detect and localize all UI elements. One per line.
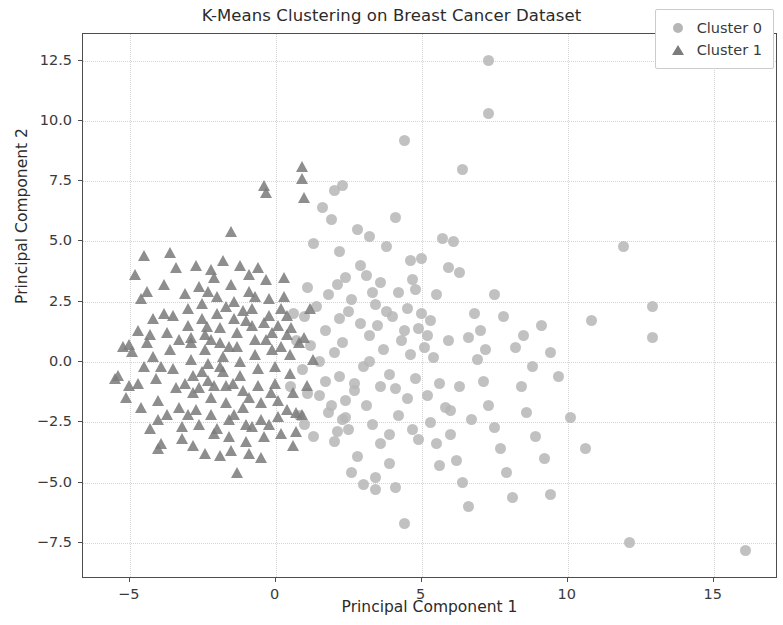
- legend-item-cluster-0[interactable]: Cluster 0: [665, 17, 762, 39]
- data-point-cluster-1: [173, 334, 185, 345]
- data-point-cluster-0: [501, 467, 512, 478]
- y-tick-mark: [78, 542, 82, 543]
- data-point-cluster-0: [384, 429, 395, 440]
- y-tick-mark: [78, 421, 82, 422]
- data-point-cluster-1: [167, 363, 179, 374]
- data-point-cluster-0: [384, 458, 395, 469]
- data-point-cluster-0: [337, 180, 348, 191]
- data-point-cluster-1: [199, 448, 211, 459]
- data-point-cluster-1: [272, 320, 284, 331]
- data-point-cluster-0: [390, 212, 401, 223]
- data-point-cluster-1: [129, 269, 141, 280]
- data-points-layer: [83, 34, 776, 577]
- data-point-cluster-0: [463, 501, 474, 512]
- data-point-cluster-1: [269, 361, 281, 372]
- data-point-cluster-0: [399, 325, 410, 336]
- data-point-cluster-1: [179, 288, 191, 299]
- data-point-cluster-0: [495, 443, 506, 454]
- data-point-cluster-1: [296, 173, 308, 184]
- data-point-cluster-0: [489, 289, 500, 300]
- data-point-cluster-0: [483, 400, 494, 411]
- data-point-cluster-0: [413, 323, 424, 334]
- data-point-cluster-0: [390, 383, 401, 394]
- data-point-cluster-0: [580, 443, 591, 454]
- data-point-cluster-1: [123, 380, 135, 391]
- data-point-cluster-0: [334, 313, 345, 324]
- y-tick-label: 5.0: [12, 232, 72, 248]
- data-point-cluster-1: [278, 291, 290, 302]
- data-point-cluster-0: [425, 315, 436, 326]
- data-point-cluster-1: [240, 436, 252, 447]
- data-point-cluster-0: [451, 455, 462, 466]
- data-point-cluster-0: [405, 255, 416, 266]
- data-point-cluster-1: [205, 334, 217, 345]
- data-point-cluster-1: [211, 423, 223, 434]
- data-point-cluster-1: [243, 392, 255, 403]
- y-tick-mark: [78, 482, 82, 483]
- data-point-cluster-0: [469, 308, 480, 319]
- data-point-cluster-0: [355, 318, 366, 329]
- data-point-cluster-0: [624, 537, 635, 548]
- y-tick-mark: [78, 240, 82, 241]
- data-point-cluster-1: [135, 402, 147, 413]
- data-point-cluster-1: [249, 291, 261, 302]
- data-point-cluster-0: [410, 373, 421, 384]
- data-point-cluster-0: [448, 236, 459, 247]
- data-point-cluster-1: [182, 320, 194, 331]
- data-point-cluster-0: [483, 108, 494, 119]
- data-point-cluster-1: [152, 395, 164, 406]
- data-point-cluster-0: [399, 518, 410, 529]
- data-point-cluster-0: [457, 164, 468, 175]
- data-point-cluster-0: [399, 135, 410, 146]
- y-tick-label: 12.5: [12, 52, 72, 68]
- data-point-cluster-1: [231, 467, 243, 478]
- data-point-cluster-0: [308, 431, 319, 442]
- x-tick-label: 5: [391, 586, 451, 602]
- data-point-cluster-0: [443, 335, 454, 346]
- y-tick-mark: [78, 120, 82, 121]
- data-point-cluster-1: [214, 361, 226, 372]
- data-point-cluster-0: [375, 438, 386, 449]
- data-point-cluster-0: [317, 202, 328, 213]
- data-point-cluster-0: [367, 287, 378, 298]
- data-point-cluster-0: [320, 376, 331, 387]
- data-point-cluster-1: [141, 286, 153, 297]
- data-point-cluster-1: [150, 373, 162, 384]
- data-point-cluster-1: [223, 341, 235, 352]
- data-point-cluster-1: [234, 356, 246, 367]
- data-point-cluster-0: [478, 376, 489, 387]
- data-point-cluster-1: [281, 404, 293, 415]
- data-point-cluster-0: [314, 390, 325, 401]
- data-point-cluster-1: [167, 310, 179, 321]
- data-point-cluster-1: [263, 293, 275, 304]
- data-point-cluster-0: [323, 289, 334, 300]
- data-point-cluster-1: [147, 313, 159, 324]
- data-point-cluster-0: [422, 330, 433, 341]
- data-point-cluster-0: [370, 484, 381, 495]
- data-point-cluster-0: [536, 320, 547, 331]
- data-point-cluster-1: [287, 440, 299, 451]
- data-point-cluster-0: [483, 55, 494, 66]
- data-point-cluster-1: [205, 409, 217, 420]
- data-point-cluster-1: [287, 387, 299, 398]
- data-point-cluster-0: [405, 349, 416, 360]
- y-tick-label: 0.0: [12, 353, 72, 369]
- data-point-cluster-0: [370, 299, 381, 310]
- data-point-cluster-1: [296, 161, 308, 172]
- data-point-cluster-0: [320, 325, 331, 336]
- data-point-cluster-1: [258, 431, 270, 442]
- y-tick-label: −7.5: [12, 534, 72, 550]
- data-point-cluster-1: [176, 433, 188, 444]
- data-point-cluster-0: [527, 361, 538, 372]
- data-point-cluster-1: [132, 325, 144, 336]
- data-point-cluster-1: [290, 426, 302, 437]
- data-point-cluster-0: [367, 419, 378, 430]
- data-point-cluster-1: [170, 262, 182, 273]
- data-point-cluster-1: [225, 279, 237, 290]
- legend-label: Cluster 0: [691, 20, 762, 36]
- data-point-cluster-1: [228, 409, 240, 420]
- data-point-cluster-1: [202, 286, 214, 297]
- data-point-cluster-0: [647, 301, 658, 312]
- data-point-cluster-1: [296, 409, 308, 420]
- legend-item-cluster-1[interactable]: Cluster 1: [665, 39, 762, 61]
